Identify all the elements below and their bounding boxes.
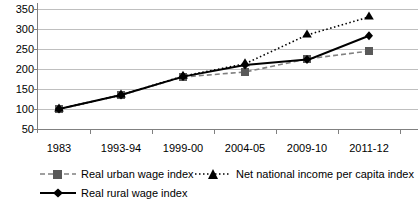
legend-marker-triangle-icon <box>195 168 231 180</box>
series-net-national-income-per-capita-index <box>54 12 374 112</box>
legend-item-real-rural-wage-index[interactable]: Real rural wage index <box>40 186 187 200</box>
y-tick-marks <box>33 9 37 129</box>
chart-container: 350 300 250 200 150 100 50 1983 1993-94 … <box>0 0 418 203</box>
legend-marker-square-icon <box>40 168 76 180</box>
legend-label-real-rural-wage-index: Real rural wage index <box>81 188 187 199</box>
legend-item-net-national-income-per-capita-index[interactable]: Net national income per capita index <box>195 167 414 181</box>
series-real-rural-wage-index <box>55 31 373 113</box>
legend-label-real-urban-wage-index: Real urban wage index <box>81 169 194 180</box>
legend-item-real-urban-wage-index[interactable]: Real urban wage index <box>40 167 194 181</box>
chart-legend: Real urban wage index Net national incom… <box>0 163 418 203</box>
legend-label-net-national-income-per-capita-index: Net national income per capita index <box>236 169 414 180</box>
series-real-urban-wage-index <box>55 47 373 113</box>
gridlines <box>37 9 418 109</box>
x-tick-marks <box>90 129 400 134</box>
legend-marker-diamond-icon <box>40 187 76 199</box>
